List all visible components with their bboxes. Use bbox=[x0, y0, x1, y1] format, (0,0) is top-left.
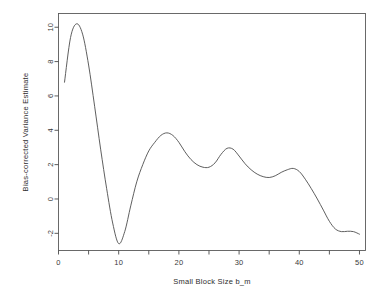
y-tick-label: 0 bbox=[46, 197, 55, 201]
x-tick-label: 40 bbox=[295, 258, 304, 267]
line-chart: 01020304050 -20246810 Small Block Size b… bbox=[0, 0, 384, 294]
y-tick-label: 6 bbox=[46, 94, 55, 98]
y-tick-label: 10 bbox=[46, 23, 55, 32]
y-tick-label: 8 bbox=[46, 59, 55, 63]
x-axis-tick-labels: 01020304050 bbox=[56, 258, 364, 267]
x-tick-label: 50 bbox=[355, 258, 364, 267]
y-axis-tick-labels: -20246810 bbox=[46, 23, 55, 237]
y-tick-label: 4 bbox=[46, 128, 55, 132]
x-axis-ticks bbox=[59, 251, 360, 255]
y-axis-ticks bbox=[55, 27, 59, 233]
y-axis-title: Bias-corrected Variance Estimate bbox=[21, 73, 30, 192]
data-series-line bbox=[65, 24, 360, 244]
chart-figure: 01020304050 -20246810 Small Block Size b… bbox=[0, 0, 384, 294]
x-tick-label: 10 bbox=[114, 258, 123, 267]
x-axis-title: Small Block Size b_m bbox=[173, 277, 251, 286]
y-tick-label: -2 bbox=[46, 230, 55, 237]
plot-frame bbox=[59, 14, 366, 251]
x-tick-label: 0 bbox=[56, 258, 60, 267]
x-tick-label: 20 bbox=[175, 258, 184, 267]
y-tick-label: 2 bbox=[46, 162, 55, 166]
x-tick-label: 30 bbox=[235, 258, 244, 267]
